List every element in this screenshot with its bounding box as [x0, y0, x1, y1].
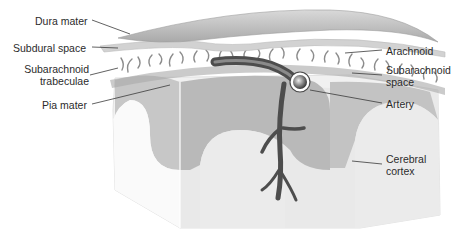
label-dura-mater: Dura mater: [35, 15, 88, 27]
label-line: Subarachnoid: [386, 64, 451, 76]
label-subdural-space: Subdural space: [13, 42, 86, 54]
label-subarachnoid-space: Subarachnoid space: [386, 64, 451, 88]
dura-mater-layer: [118, 10, 438, 42]
label-line: space: [386, 76, 451, 88]
label-subarachnoid-trabeculae: Subarachnoid trabeculae: [21, 63, 89, 87]
label-arachnoid: Arachnoid: [386, 45, 433, 57]
label-line: Cerebral: [386, 153, 426, 165]
label-line: cortex: [386, 165, 426, 177]
label-line: trabeculae: [21, 75, 89, 87]
label-artery: Artery: [386, 98, 414, 110]
diagram-illustration: [0, 0, 458, 235]
meninges-diagram: Dura mater Subdural space Subarachnoid t…: [0, 0, 458, 235]
label-cerebral-cortex: Cerebral cortex: [386, 153, 426, 177]
label-pia-mater: Pia mater: [42, 99, 87, 111]
label-line: Subarachnoid: [21, 63, 89, 75]
